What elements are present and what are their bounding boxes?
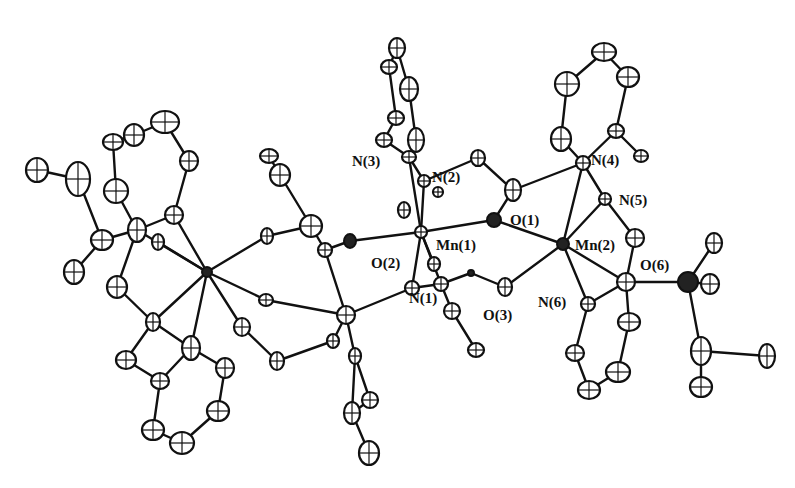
atom-l9: [128, 218, 146, 242]
label-mn1: Mn(1): [436, 237, 476, 254]
atom-l16: [116, 351, 136, 369]
bond: [207, 236, 267, 272]
label-n6: N(6): [538, 294, 566, 311]
atom-p1: [389, 38, 405, 58]
atom-c1: [471, 150, 485, 166]
atom-l21: [170, 432, 194, 454]
bonds-layer: [37, 48, 767, 453]
atom-q6: [634, 150, 648, 162]
atom-c3: [433, 187, 443, 197]
bond: [421, 181, 424, 232]
atom-l17: [151, 373, 169, 389]
atom-p3: [400, 77, 418, 101]
label-o3: O(3): [483, 307, 512, 324]
atom-l19: [207, 401, 229, 421]
atom-s4: [578, 381, 600, 399]
bond: [350, 232, 421, 241]
atom-c7: [444, 303, 460, 319]
atom-mnl: [202, 267, 212, 277]
label-o1: O(1): [510, 212, 539, 229]
atom-r5: [759, 344, 775, 368]
atom-l11: [152, 234, 164, 250]
atom-l5: [66, 162, 90, 196]
atom-l3: [103, 134, 123, 150]
atom-o1: [487, 213, 501, 227]
atom-m11: [349, 348, 361, 364]
label-n1: N(1): [409, 290, 437, 307]
atom-n3: [402, 151, 416, 163]
atom-l20: [142, 420, 164, 440]
atom-n4: [576, 156, 590, 170]
atom-n2: [418, 175, 430, 187]
atom-q7: [626, 229, 644, 247]
bond: [325, 250, 346, 315]
ortep-diagram: N(3) N(2) N(4) N(5) O(1) Mn(1) Mn(2) O(2…: [0, 0, 795, 488]
atom-l1: [151, 111, 179, 133]
label-o6: O(6): [640, 257, 669, 274]
atom-p2: [381, 60, 397, 74]
atom-n6: [581, 297, 595, 311]
label-n5: N(5): [619, 192, 647, 209]
atom-r2: [678, 272, 698, 292]
bond: [513, 163, 583, 190]
bond: [505, 244, 563, 287]
atom-l10: [91, 230, 113, 250]
atom-m3: [300, 215, 322, 237]
atom-m14: [359, 441, 379, 465]
bond: [266, 300, 346, 315]
atom-p5: [376, 133, 392, 147]
atom-m10: [234, 318, 250, 336]
label-n4: N(4): [591, 152, 619, 169]
atom-l8: [165, 206, 183, 224]
bond: [277, 341, 333, 361]
label-o2: O(2): [371, 255, 400, 272]
atoms-layer: [26, 38, 775, 465]
atom-q5: [608, 124, 624, 138]
atom-m13: [344, 402, 360, 424]
atom-m1: [260, 149, 278, 163]
atom-m8: [327, 334, 339, 348]
atom-m6: [259, 294, 273, 306]
bond: [563, 244, 588, 304]
atom-q3: [617, 67, 639, 87]
atom-m9: [270, 352, 284, 370]
atom-o3: [498, 278, 512, 296]
atom-l12: [64, 260, 84, 284]
bond: [421, 220, 494, 232]
atom-r6: [690, 377, 712, 397]
atom-c2: [505, 179, 521, 201]
atom-p4: [388, 111, 404, 125]
atom-n1: [434, 277, 448, 291]
atom-p6: [408, 128, 424, 152]
atom-m2: [270, 164, 290, 186]
atom-n5: [599, 193, 611, 205]
atom-s3: [566, 345, 584, 361]
atom-l4: [180, 151, 198, 171]
atom-labels-layer: N(3) N(2) N(4) N(5) O(1) Mn(1) Mn(2) O(2…: [352, 152, 669, 324]
bond: [412, 232, 421, 288]
atom-c5: [344, 234, 356, 248]
atom-mn1: [415, 226, 427, 238]
atom-r3: [701, 274, 719, 294]
label-n3: N(3): [352, 153, 380, 170]
atom-m12: [362, 392, 378, 408]
label-n2: N(2): [432, 169, 460, 186]
atom-s1: [618, 313, 640, 331]
atom-o6: [617, 273, 635, 291]
atom-l2: [124, 124, 144, 146]
atom-q2: [555, 72, 579, 96]
bond: [137, 230, 207, 272]
atom-s2: [606, 362, 630, 382]
atom-m7: [337, 306, 355, 324]
atom-mn2: [557, 238, 569, 250]
atom-c8: [468, 343, 484, 357]
atom-l13: [107, 276, 127, 298]
atom-l14: [146, 313, 160, 331]
atom-c9: [428, 257, 440, 271]
atom-l6: [26, 158, 48, 182]
label-mn2: Mn(2): [575, 237, 615, 254]
molecule-structure: N(3) N(2) N(4) N(5) O(1) Mn(1) Mn(2) O(2…: [0, 0, 795, 488]
atom-c6: [468, 270, 474, 276]
atom-c4: [398, 202, 410, 218]
atom-l15: [182, 336, 200, 360]
